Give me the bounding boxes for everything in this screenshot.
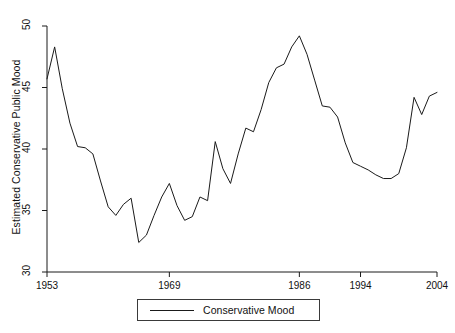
y-axis-tick-label: 50 — [21, 14, 32, 36]
y-axis-tick-label: 40 — [21, 137, 32, 159]
x-axis-tick-label: 1994 — [341, 280, 381, 291]
x-axis-tick-label: 1986 — [279, 280, 319, 291]
chart-container: Estimated Conservative Public Mood 30354… — [0, 0, 455, 333]
series-line-conservative-mood — [47, 36, 437, 243]
y-axis-tick-label: 35 — [21, 198, 32, 220]
x-axis-tick-label: 2004 — [417, 280, 455, 291]
x-axis-tick-label: 1953 — [27, 280, 67, 291]
line-chart-plot — [0, 0, 455, 333]
y-axis-tick-label: 30 — [21, 260, 32, 282]
legend-line-swatch-icon — [150, 310, 194, 311]
chart-legend: Conservative Mood — [137, 299, 320, 321]
legend-item-label: Conservative Mood — [203, 304, 294, 316]
y-axis-tick-label: 45 — [21, 75, 32, 97]
x-axis-tick-label: 1969 — [149, 280, 189, 291]
